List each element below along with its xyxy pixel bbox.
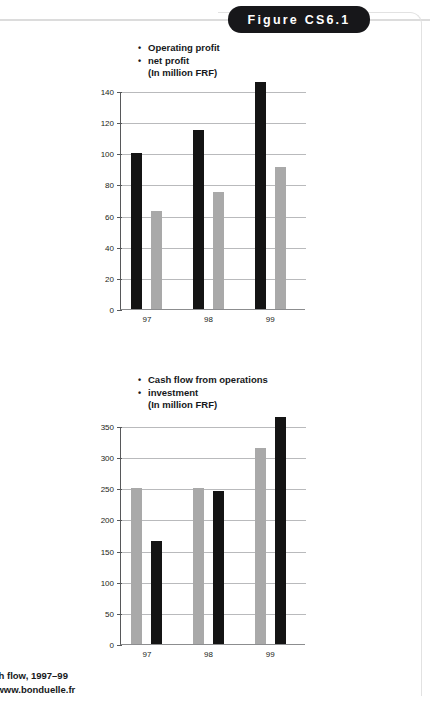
chart-cashflow-vs-investment: 050100150200250300350979899 <box>120 427 305 645</box>
y-axis-tick <box>117 310 122 311</box>
y-axis-tick <box>117 217 122 218</box>
chart-2-legend: • Cash flow from operations • investment… <box>138 374 268 412</box>
figure-tab-label: Figure CS6.1 <box>248 13 351 27</box>
legend-label: Operating profit <box>148 42 220 55</box>
y-axis-tick <box>117 489 122 490</box>
x-axis-label: 99 <box>266 315 275 324</box>
y-axis-label: 0 <box>110 641 114 650</box>
y-axis-tick <box>117 185 122 186</box>
y-axis-label: 20 <box>105 274 114 283</box>
bar <box>213 491 224 644</box>
y-axis-label: 0 <box>110 306 114 315</box>
legend-entry: • Operating profit <box>138 42 220 55</box>
legend-units: (In million FRF) <box>138 67 220 80</box>
y-axis-tick <box>117 614 122 615</box>
y-axis-label: 40 <box>105 243 114 252</box>
bar <box>151 211 162 309</box>
legend-units: (In million FRF) <box>138 399 268 412</box>
y-axis-tick <box>117 552 122 553</box>
y-axis-label: 80 <box>105 181 114 190</box>
y-axis-tick <box>117 279 122 280</box>
bullet-icon: • <box>138 374 148 387</box>
figure-tab: Figure CS6.1 <box>228 6 370 33</box>
y-axis-label: 250 <box>101 485 114 494</box>
figure-page: Figure CS6.1 • Operating profit • net pr… <box>0 0 430 703</box>
x-axis-label: 98 <box>204 315 213 324</box>
y-axis-tick <box>117 520 122 521</box>
y-axis-tick <box>117 427 122 428</box>
x-axis-label: 99 <box>266 650 275 659</box>
legend-entry: • net profit <box>138 55 220 68</box>
y-axis-tick <box>117 583 122 584</box>
chart-operating-vs-net-profit: 020406080100120140979899 <box>120 92 305 310</box>
x-axis-label: 98 <box>204 650 213 659</box>
bullet-icon: • <box>138 55 148 68</box>
y-axis-label: 300 <box>101 454 114 463</box>
bar <box>131 488 142 644</box>
x-axis-label: 97 <box>142 315 151 324</box>
chart-1-legend: • Operating profit • net profit (In mill… <box>138 42 220 80</box>
bar <box>255 82 266 309</box>
y-axis-label: 120 <box>101 119 114 128</box>
y-axis-label: 200 <box>101 516 114 525</box>
y-axis-label: 140 <box>101 88 114 97</box>
bar <box>193 130 204 309</box>
y-axis-tick <box>117 123 122 124</box>
bar <box>131 153 142 309</box>
gridline <box>121 92 306 93</box>
y-axis-tick <box>117 248 122 249</box>
y-axis-label: 60 <box>105 212 114 221</box>
chart-2-plot-area: 050100150200250300350979899 <box>120 427 305 645</box>
y-axis-label: 350 <box>101 423 114 432</box>
legend-entry: • Cash flow from operations <box>138 374 268 387</box>
caption-line-1: ash flow, 1997–99 <box>0 669 68 682</box>
chart-1-plot-area: 020406080100120140979899 <box>120 92 305 310</box>
bar <box>193 488 204 644</box>
y-axis-tick <box>117 645 122 646</box>
bar <box>275 417 286 644</box>
legend-label: Cash flow from operations <box>148 374 268 387</box>
bar <box>213 192 224 309</box>
y-axis-tick <box>117 458 122 459</box>
bar <box>151 541 162 644</box>
y-axis-tick <box>117 92 122 93</box>
y-axis-label: 100 <box>101 150 114 159</box>
bullet-icon: • <box>138 42 148 55</box>
caption-line-2: ://www.bonduelle.fr <box>0 683 75 696</box>
y-axis-label: 50 <box>105 609 114 618</box>
y-axis-label: 150 <box>101 547 114 556</box>
y-axis-tick <box>117 154 122 155</box>
bar <box>275 167 286 309</box>
legend-label: investment <box>148 387 198 400</box>
y-axis-label: 100 <box>101 578 114 587</box>
x-axis-label: 97 <box>142 650 151 659</box>
legend-label: net profit <box>148 55 189 68</box>
legend-entry: • investment <box>138 387 268 400</box>
gridline <box>121 154 306 155</box>
bullet-icon: • <box>138 387 148 400</box>
gridline <box>121 123 306 124</box>
bar <box>255 448 266 644</box>
